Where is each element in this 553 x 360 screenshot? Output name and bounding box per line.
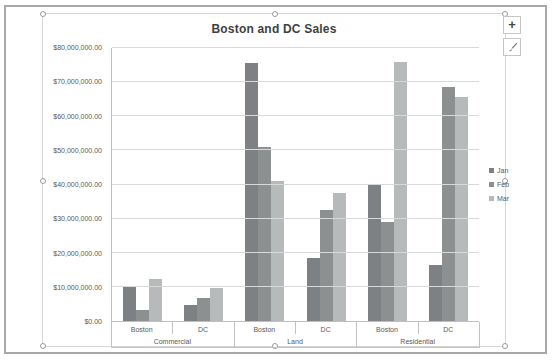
bar-feb[interactable] <box>136 310 149 321</box>
gridline <box>112 149 479 150</box>
x-axis-group-labels: CommercialLandResidential <box>111 335 479 347</box>
selection-handle-bottom-right[interactable] <box>502 343 508 349</box>
y-tick-label: $20,000,000.00 <box>53 250 102 257</box>
legend-label: Mar <box>497 195 509 202</box>
bar-jan[interactable] <box>184 305 197 321</box>
legend-swatch-icon <box>489 168 494 173</box>
worksheet-canvas: { "ui": { "chart_buttons": { "elements_g… <box>0 0 553 360</box>
legend-item-jan[interactable]: Jan <box>489 167 509 174</box>
gridline <box>112 47 479 48</box>
bar-mar[interactable] <box>394 62 407 321</box>
bar-cluster-residential-dc <box>418 48 479 321</box>
bar-feb[interactable] <box>258 147 271 321</box>
gridline <box>112 81 479 82</box>
bar-clusters <box>112 48 479 321</box>
bar-jan[interactable] <box>368 185 381 322</box>
bar-jan[interactable] <box>307 258 320 321</box>
bar-cluster-commercial-boston <box>112 48 173 321</box>
x-subcategory-label: Boston <box>111 323 172 335</box>
x-subcategory-label: DC <box>172 323 233 335</box>
bar-jan[interactable] <box>429 265 442 321</box>
y-tick-label: $10,000,000.00 <box>53 284 102 291</box>
x-subcategory-label: Boston <box>234 323 295 335</box>
bar-cluster-residential-boston <box>357 48 418 321</box>
bar-cluster-commercial-dc <box>173 48 234 321</box>
y-tick-label: $0.00 <box>84 318 102 325</box>
y-tick-label: $60,000,000.00 <box>53 113 102 120</box>
y-tick-label: $30,000,000.00 <box>53 215 102 222</box>
legend-label: Feb <box>497 181 509 188</box>
plot-area <box>111 48 479 322</box>
x-group-label: Commercial <box>111 335 234 347</box>
y-tick-label: $70,000,000.00 <box>53 78 102 85</box>
legend-swatch-icon <box>489 182 494 187</box>
chart-elements-button[interactable]: + <box>503 16 521 34</box>
selection-handle-bottom-left[interactable] <box>40 343 46 349</box>
chart-styles-button[interactable] <box>503 38 521 56</box>
bar-mar[interactable] <box>455 97 468 321</box>
legend-label: Jan <box>497 167 508 174</box>
gridline <box>112 184 479 185</box>
x-group-label: Land <box>234 335 357 347</box>
bar-feb[interactable] <box>320 210 333 321</box>
paintbrush-icon <box>506 41 518 53</box>
bar-cluster-land-dc <box>296 48 357 321</box>
y-tick-label: $80,000,000.00 <box>53 44 102 51</box>
x-subcategory-label: DC <box>418 323 479 335</box>
gridline <box>112 252 479 253</box>
x-axis-subcategory-labels: BostonDCBostonDCBostonDC <box>111 323 479 335</box>
gridline <box>112 115 479 116</box>
y-tick-label: $50,000,000.00 <box>53 147 102 154</box>
bar-mar[interactable] <box>210 288 223 321</box>
selection-handle-top-center[interactable] <box>272 11 278 17</box>
legend: JanFebMar <box>489 167 509 202</box>
gridline <box>112 218 479 219</box>
x-subcategory-label: Boston <box>356 323 417 335</box>
selection-handle-top-left[interactable] <box>40 11 46 17</box>
x-axis-tick-line <box>479 322 480 347</box>
x-group-label: Residential <box>356 335 479 347</box>
chart-title[interactable]: Boston and DC Sales <box>43 22 505 36</box>
x-subcategory-label: DC <box>295 323 356 335</box>
chart-object[interactable]: Boston and DC Sales $0.00$10,000,000.00$… <box>42 13 506 347</box>
bar-mar[interactable] <box>333 193 346 321</box>
y-tick-label: $40,000,000.00 <box>53 181 102 188</box>
plus-icon: + <box>508 19 516 31</box>
legend-item-mar[interactable]: Mar <box>489 195 509 202</box>
bar-feb[interactable] <box>381 222 394 321</box>
gridline <box>112 286 479 287</box>
x-axis-bottom-line <box>111 347 480 348</box>
legend-swatch-icon <box>489 196 494 201</box>
bar-cluster-land-boston <box>234 48 295 321</box>
bar-jan[interactable] <box>123 287 136 321</box>
y-axis-labels: $0.00$10,000,000.00$20,000,000.00$30,000… <box>43 48 106 322</box>
legend-item-feb[interactable]: Feb <box>489 181 509 188</box>
bar-jan[interactable] <box>245 63 258 321</box>
bar-feb[interactable] <box>197 298 210 321</box>
